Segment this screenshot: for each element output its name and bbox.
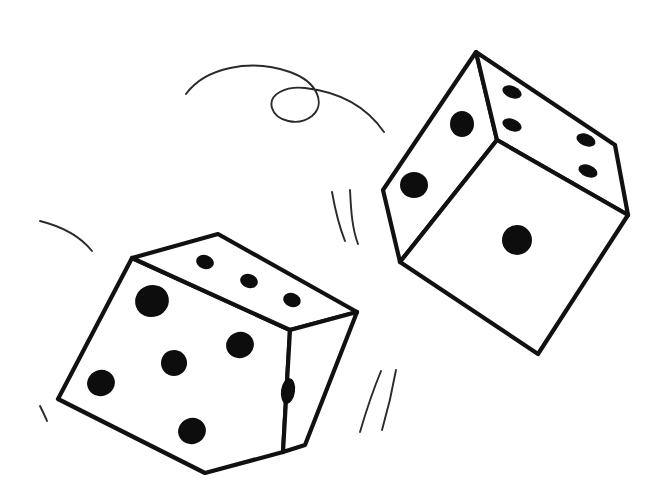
left-face-pip-1 [450, 111, 474, 137]
front-face-pip-1 [502, 225, 532, 255]
dice-illustration: Two tumbling dice line drawing [0, 0, 671, 488]
left-face-pip-2 [400, 172, 428, 198]
dice-scene-svg [0, 0, 671, 488]
